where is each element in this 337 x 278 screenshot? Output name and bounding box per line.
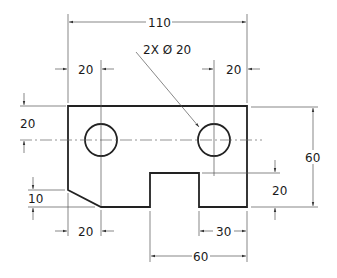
centerlines: [20, 60, 262, 206]
svg-text:60: 60: [305, 151, 320, 165]
svg-text:20: 20: [272, 184, 287, 198]
engineering-drawing: 110 2X Ø 20 20 20 20 60 20: [0, 0, 337, 278]
svg-text:20: 20: [78, 63, 93, 77]
dim-right-hole-offset: 20: [202, 63, 260, 77]
svg-text:60: 60: [193, 250, 208, 264]
svg-text:20: 20: [78, 225, 93, 239]
part-outline: [68, 106, 247, 207]
svg-text:2X Ø 20: 2X Ø 20: [143, 43, 191, 57]
svg-text:20: 20: [226, 63, 241, 77]
dim-chamfer-width: 20: [55, 193, 114, 239]
svg-text:110: 110: [148, 16, 171, 30]
svg-text:30: 30: [216, 225, 231, 239]
dim-slot-span: 60: [150, 211, 246, 264]
hole-callout: 2X Ø 20: [136, 43, 199, 127]
dim-top-hole-offset: 20: [20, 93, 66, 153]
svg-text:20: 20: [20, 117, 35, 131]
dim-slot-depth: 20: [202, 160, 287, 220]
svg-text:10: 10: [28, 192, 43, 206]
dim-left-hole-offset: 20: [55, 63, 114, 77]
dim-overall-width: 110: [68, 14, 247, 103]
